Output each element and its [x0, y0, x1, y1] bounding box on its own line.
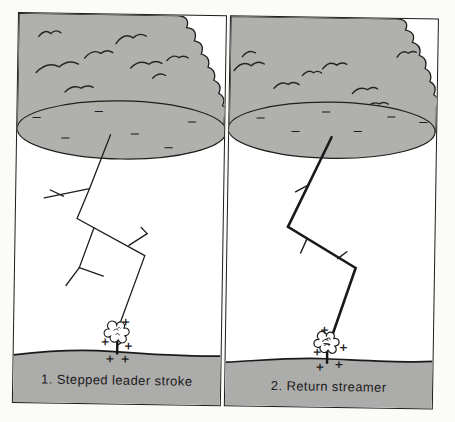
leader-branch — [79, 228, 94, 268]
negative-charge-symbol: − — [386, 109, 397, 124]
negative-charge-symbol: − — [129, 126, 140, 141]
negative-charge-symbol: − — [187, 114, 198, 129]
negative-charge-symbol: − — [255, 110, 266, 125]
leader-main-channel — [75, 134, 146, 325]
negative-charge-symbol: − — [418, 115, 429, 130]
positive-charge-symbol: + — [105, 352, 114, 365]
positive-charge-symbol: + — [101, 335, 110, 348]
streamer-branch-tick — [301, 239, 307, 253]
stepped-leader-stroke — [42, 134, 148, 325]
negative-charge-symbol: − — [320, 104, 331, 119]
leader-branch — [66, 267, 79, 285]
panel-return-streamer: − − − − − − — [224, 15, 439, 409]
negative-charge-symbol: − — [93, 103, 104, 118]
positive-charge-symbol: + — [315, 361, 324, 374]
negative-charge-symbol: − — [163, 140, 174, 155]
lightning-formation-diagram: − − − − − − — [12, 12, 439, 410]
negative-charge-symbol: − — [290, 124, 301, 139]
positive-charge-symbol: + — [312, 346, 321, 359]
positive-charge-symbol: + — [120, 353, 129, 366]
negative-charge-symbol: − — [31, 110, 42, 125]
positive-charge-symbol: + — [339, 341, 348, 354]
negative-charge-symbol: − — [60, 130, 71, 145]
positive-charge-symbol: + — [320, 324, 329, 337]
positive-charge-symbol: + — [334, 358, 343, 371]
stepped-leader-scene: − − − − − − — [13, 13, 226, 405]
leader-branch — [44, 188, 89, 199]
positive-charge-symbol: + — [124, 340, 133, 353]
return-streamer-scene: − − − − − − — [225, 16, 438, 408]
leader-branch — [79, 268, 103, 276]
positive-charge-symbol: + — [121, 315, 130, 328]
streamer-main-channel — [286, 137, 357, 336]
negative-charge-symbol: − — [352, 124, 363, 139]
leader-branch — [129, 233, 147, 245]
panel-caption: 1. Stepped leader stroke — [13, 371, 220, 389]
panel-stepped-leader-stroke: − − − − − − — [12, 12, 227, 406]
return-streamer-bolt — [286, 137, 357, 336]
leader-branch-tick — [141, 228, 147, 234]
streamer-branch-tick — [338, 252, 347, 259]
